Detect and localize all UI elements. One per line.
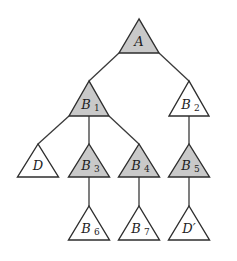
node-label: D′ (181, 221, 195, 236)
node-b5: B5 (169, 144, 210, 177)
edge-a-b2 (159, 53, 189, 81)
node-subscript: 3 (94, 164, 100, 174)
tree-diagram: AB1B2DB3B4B5B6B7D′ (0, 0, 237, 261)
node-label: B (80, 221, 91, 236)
node-label: B (180, 158, 191, 173)
node-b3: B3 (69, 144, 110, 177)
node-label: D (32, 158, 44, 173)
node-label: B (130, 158, 141, 173)
node-subscript: 4 (144, 164, 150, 174)
node-b6: B6 (69, 206, 110, 240)
node-label: A (133, 34, 143, 49)
node-b7: B7 (119, 206, 160, 240)
edge-b1-b4 (109, 116, 139, 144)
edge-b1-d (38, 116, 69, 144)
node-b4: B4 (119, 144, 160, 177)
node-subscript: 6 (94, 227, 100, 237)
node-subscript: 7 (144, 227, 150, 237)
tree-nodes: AB1B2DB3B4B5B6B7D′ (18, 19, 210, 240)
node-b1: B1 (69, 81, 109, 116)
node-label: B (130, 221, 141, 236)
node-label: B (180, 97, 191, 112)
tree-edges (38, 53, 189, 206)
edge-a-b1 (89, 53, 119, 81)
node-label: B (80, 158, 91, 173)
node-a: A (119, 19, 159, 53)
node-d: D (18, 144, 59, 177)
node-subscript: 5 (194, 164, 200, 174)
node-label: B (80, 97, 91, 112)
node-b2: B2 (169, 81, 209, 116)
node-dp: D′ (169, 206, 210, 240)
node-subscript: 2 (194, 103, 200, 113)
node-subscript: 1 (94, 103, 100, 113)
